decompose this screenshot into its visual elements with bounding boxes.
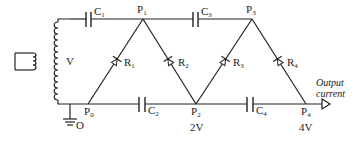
capacitor-c3	[193, 12, 198, 27]
node-p4-label: P4	[301, 105, 311, 119]
capacitor-c2-label: C2	[148, 104, 159, 118]
ground-icon	[63, 104, 77, 125]
capacitor-c1-label: C1	[94, 5, 105, 19]
source-voltage-label: V	[66, 55, 74, 67]
rectifier-r4-icon	[273, 56, 285, 66]
node-p3-label: P3	[246, 3, 256, 17]
ground-label: O	[76, 119, 84, 131]
rectifier-r2-icon	[164, 56, 176, 66]
capacitor-c4	[247, 97, 253, 112]
capacitor-c3-label: C3	[201, 5, 212, 19]
rectifier-r4-label: R4	[287, 56, 298, 70]
output-label-line1: Output	[316, 77, 344, 88]
capacitor-c1	[86, 12, 91, 27]
rectifier-r3-label: R3	[233, 56, 244, 70]
circuit-diagram: V C1 C3 P1 P3 C2 C4 O P0 P2 P4 2V 4V	[0, 0, 357, 143]
output-label-line2: current	[316, 88, 345, 99]
output-arrow-icon	[322, 99, 330, 109]
rectifier-r1-label: R1	[124, 56, 135, 70]
rectifier-r2-label: R2	[178, 56, 189, 70]
rectifier-r1-icon	[110, 56, 122, 66]
voltage-p4-label: 4V	[299, 121, 313, 133]
node-p1-label: P1	[137, 3, 147, 17]
node-p2-label: P2	[191, 105, 201, 119]
primary-coil-icon	[15, 53, 36, 70]
capacitor-c4-label: C4	[256, 104, 267, 118]
node-p0-label: P0	[84, 105, 94, 119]
rectifier-r3-icon	[218, 56, 230, 66]
voltage-p2-label: 2V	[190, 121, 204, 133]
capacitor-c2	[139, 97, 145, 112]
